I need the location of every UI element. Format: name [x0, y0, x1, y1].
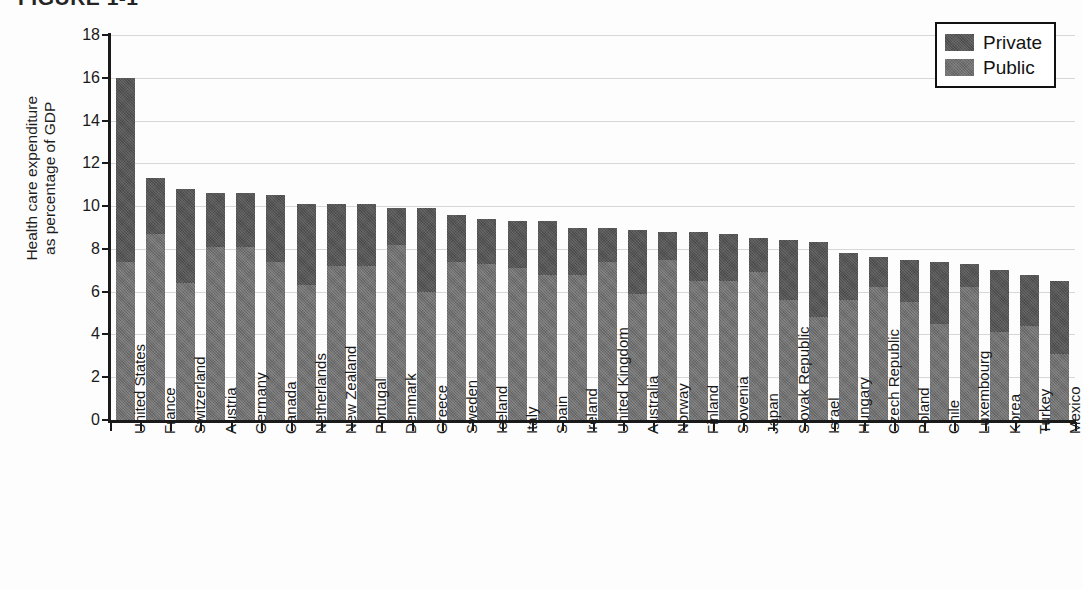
x-axis-category-label: Switzerland — [191, 356, 208, 434]
y-axis-tick-label: 16 — [82, 69, 100, 87]
y-axis-tick-label: 14 — [82, 112, 100, 130]
bar-segment-private — [1050, 281, 1069, 354]
bar-segment-private — [176, 189, 195, 283]
bar-segment-private — [417, 208, 436, 291]
x-axis-category-label: New Zealand — [342, 346, 359, 434]
x-axis-category-label: France — [161, 387, 178, 434]
bar-segment-private — [357, 204, 376, 266]
x-axis-category-label: Chile — [945, 400, 962, 434]
bar-group[interactable] — [206, 193, 225, 420]
bar-segment-private — [266, 195, 285, 261]
bar-segment-private — [327, 204, 346, 266]
x-axis-category-label: Italy — [523, 406, 540, 434]
bar-segment-private — [779, 240, 798, 300]
bar-group[interactable] — [508, 221, 527, 420]
x-axis-category-label: Mexico — [1066, 386, 1083, 434]
bar-segment-private — [568, 228, 587, 275]
y-axis-tick-label: 4 — [91, 325, 100, 343]
legend-item-label: Public — [983, 58, 1035, 77]
y-axis-tick-label: 18 — [82, 26, 100, 44]
x-axis-category-label: Poland — [915, 387, 932, 434]
x-axis-category-label: Austria — [222, 387, 239, 434]
x-axis-category-label: Ireland — [583, 388, 600, 434]
x-axis-category-label: Finland — [704, 385, 721, 434]
x-axis-category-label: Korea — [1006, 394, 1023, 434]
bar-segment-private — [930, 262, 949, 324]
legend-item[interactable]: Public — [945, 55, 1042, 80]
bar-segment-private — [689, 232, 708, 281]
bar-segment-private — [146, 178, 165, 234]
bar-segment-private — [236, 193, 255, 246]
x-axis-category-label: United Kingdom — [614, 327, 631, 434]
bar-segment-private — [447, 215, 466, 262]
bar-segment-public — [508, 268, 527, 420]
x-axis-tick-mark — [110, 422, 112, 431]
y-axis-tick-label: 10 — [82, 197, 100, 215]
y-axis-tick-label: 6 — [91, 283, 100, 301]
bar-group[interactable] — [538, 221, 557, 420]
bar-segment-private — [628, 230, 647, 294]
legend-item-label: Private — [983, 33, 1042, 52]
x-axis-category-label: Turkey — [1036, 389, 1053, 434]
x-axis-category-label: Slovak Republic — [795, 326, 812, 434]
x-axis-category-label: Iceland — [493, 386, 510, 434]
x-axis-category-label: Norway — [674, 383, 691, 434]
x-axis-category-label: Czech Republic — [885, 329, 902, 434]
bar-group[interactable] — [146, 178, 165, 420]
x-axis-category-label: Greece — [433, 385, 450, 434]
bar-segment-private — [869, 257, 888, 287]
y-axis-tick-labels: 024681012141618 — [60, 35, 100, 420]
y-axis-tick-label: 12 — [82, 154, 100, 172]
x-axis-category-label: Portugal — [372, 378, 389, 434]
bar-segment-private — [508, 221, 527, 268]
bar-series-layer — [110, 35, 1075, 420]
x-axis-category-label: Hungary — [855, 377, 872, 434]
x-axis-category-label: Slovenia — [734, 376, 751, 434]
y-axis-tick-label: 0 — [91, 411, 100, 429]
x-axis-category-label: Canada — [282, 381, 299, 434]
x-axis-category-label: Denmark — [402, 373, 419, 434]
bar-segment-private — [1020, 275, 1039, 326]
x-axis-category-label: Spain — [553, 396, 570, 434]
y-axis-title: Health care expenditure as percentage of… — [23, 0, 60, 358]
y-axis-tick-label: 8 — [91, 240, 100, 258]
bar-segment-private — [960, 264, 979, 288]
legend-swatch-public — [945, 59, 974, 76]
bar-segment-private — [477, 219, 496, 264]
x-axis-category-label: Australia — [644, 376, 661, 434]
bar-segment-private — [749, 238, 768, 272]
bar-segment-private — [900, 260, 919, 303]
chart-legend: PrivatePublic — [935, 22, 1056, 88]
bar-segment-private — [658, 232, 677, 260]
x-axis-category-label: Luxembourg — [975, 351, 992, 434]
x-axis-category-label: Netherlands — [312, 353, 329, 434]
x-axis-category-label: Japan — [764, 393, 781, 434]
bar-segment-private — [116, 78, 135, 262]
bar-segment-private — [297, 204, 316, 285]
x-axis-category-label: Germany — [252, 372, 269, 434]
y-axis-tick-label: 2 — [91, 368, 100, 386]
bar-segment-private — [839, 253, 858, 300]
legend-swatch-private — [945, 34, 974, 51]
bar-segment-private — [206, 193, 225, 246]
bar-segment-private — [598, 228, 617, 262]
figure-container: FIGURE 1-1 Health care expenditure as pe… — [0, 0, 1083, 589]
bar-segment-private — [719, 234, 738, 281]
x-axis-category-labels: United StatesFranceSwitzerlandAustriaGer… — [110, 434, 1075, 589]
bar-segment-private — [538, 221, 557, 274]
bar-group[interactable] — [809, 242, 828, 420]
bar-group[interactable] — [930, 262, 949, 420]
bar-segment-private — [809, 242, 828, 317]
bar-segment-private — [387, 208, 406, 244]
x-axis-category-label: United States — [131, 344, 148, 434]
x-axis-category-label: Sweden — [463, 380, 480, 434]
legend-item[interactable]: Private — [945, 30, 1042, 55]
bar-segment-private — [990, 270, 1009, 332]
x-axis-category-label: Israel — [825, 397, 842, 434]
